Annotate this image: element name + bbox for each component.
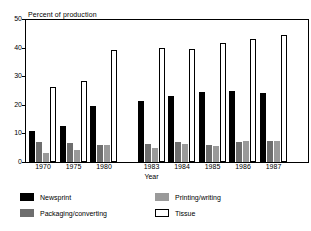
printing-bar	[74, 150, 80, 162]
newsprint-bar	[138, 101, 144, 162]
newsprint-swatch	[20, 193, 34, 201]
newsprint-bar	[90, 106, 96, 162]
y-tick-mark	[22, 19, 25, 20]
y-tick-label: 40	[0, 44, 22, 51]
printing-bar	[182, 144, 188, 162]
packaging-bar	[145, 144, 151, 162]
printing-bar	[152, 148, 158, 162]
packaging-swatch	[20, 209, 34, 217]
newsprint-bar	[60, 126, 66, 162]
tissue-bar	[250, 39, 256, 162]
y-tick-label: 0	[0, 158, 22, 165]
tissue-swatch	[155, 209, 169, 217]
tissue-bar	[281, 35, 287, 162]
newsprint-bar	[29, 131, 35, 162]
y-tick-mark	[22, 105, 25, 106]
legend-label: Tissue	[175, 210, 195, 217]
printing-bar	[43, 153, 49, 162]
y-tick-mark	[22, 48, 25, 49]
legend-label: Printing/writing	[175, 194, 221, 201]
y-tick-mark	[22, 76, 25, 77]
y-tick-label: 50	[0, 15, 22, 22]
tissue-bar	[159, 48, 165, 162]
packaging-bar	[175, 142, 181, 162]
packaging-bar	[97, 145, 103, 162]
newsprint-bar	[168, 96, 174, 162]
printing-bar	[243, 141, 249, 162]
x-tick-label: 1980	[84, 163, 124, 170]
tissue-bar	[189, 49, 195, 162]
printing-bar	[213, 146, 219, 162]
tissue-bar	[220, 43, 226, 162]
y-tick-label: 10	[0, 129, 22, 136]
newsprint-bar	[229, 91, 235, 162]
legend-label: Packaging/converting	[40, 210, 107, 217]
legend-item: Printing/writing	[155, 193, 221, 201]
legend-item: Tissue	[155, 209, 195, 217]
legend-label: Newsprint	[40, 194, 71, 201]
packaging-bar	[267, 141, 273, 162]
printing-bar	[274, 141, 280, 162]
packaging-bar	[236, 142, 242, 162]
y-tick-label: 20	[0, 101, 22, 108]
y-axis-label: Percent of production	[28, 11, 97, 18]
packaging-bar	[67, 143, 73, 162]
legend: NewsprintPrinting/writingPackaging/conve…	[0, 193, 311, 231]
newsprint-bar	[260, 93, 266, 162]
tissue-bar	[111, 50, 117, 162]
legend-item: Packaging/converting	[20, 209, 107, 217]
x-axis-label: Year	[132, 173, 172, 180]
newsprint-bar	[199, 92, 205, 162]
printing-bar	[104, 145, 110, 162]
y-tick-mark	[22, 133, 25, 134]
x-tick-label: 1987	[254, 163, 294, 170]
tissue-bar	[81, 81, 87, 162]
packaging-bar	[36, 142, 42, 162]
tissue-bar	[50, 87, 56, 162]
legend-item: Newsprint	[20, 193, 71, 201]
packaging-bar	[206, 145, 212, 162]
printing-swatch	[155, 193, 169, 201]
chart-container: Percent of production 01020304050 197019…	[0, 0, 311, 231]
y-tick-label: 30	[0, 72, 22, 79]
clipped-title	[0, 0, 311, 8]
